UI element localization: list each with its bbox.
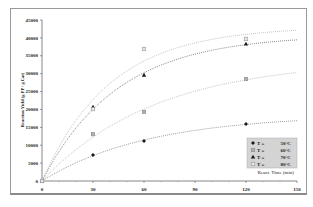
x-tick-label: 150 (293, 187, 301, 192)
gray-square-marker-icon (244, 77, 248, 81)
x-tick-label: 0 (41, 187, 44, 192)
open-square-marker-icon (142, 47, 146, 51)
y-tick-label: 35000 (26, 53, 39, 58)
legend-label: T = (257, 141, 264, 146)
legend-value: 60°C (280, 148, 291, 153)
triangle-marker-icon (142, 73, 146, 77)
legend-label: T = (257, 148, 264, 153)
open-square-marker-icon (244, 37, 248, 41)
legend-label: T = (257, 155, 264, 160)
y-tick-label: 25000 (26, 89, 39, 94)
open-square-marker-icon (91, 107, 95, 111)
gray-square-marker-icon (91, 132, 95, 136)
y-tick-label: 10000 (26, 143, 39, 148)
legend-value: 80°C (280, 162, 291, 167)
open-square-marker-icon (251, 162, 255, 166)
y-axis-title: Reaction Yield (g PP / g Cat) (20, 72, 25, 127)
x-tick-label: 120 (242, 187, 250, 192)
y-tick-label: 45000 (26, 18, 39, 23)
gray-square-marker-icon (142, 110, 146, 114)
open-square-marker-icon (40, 179, 44, 183)
y-tick-label: 30000 (26, 71, 39, 76)
diamond-marker-icon (142, 139, 146, 143)
diamond-marker-icon (91, 153, 95, 157)
gray-square-marker-icon (251, 148, 255, 152)
legend: T =50°CT =60°CT =70°CT =80°C (247, 138, 297, 168)
y-tick-label: 0 (36, 179, 39, 184)
x-tick-label: 90 (193, 187, 199, 192)
data-points (40, 37, 248, 183)
y-tick-label: 40000 (26, 36, 39, 41)
x-tick-label: 60 (142, 187, 148, 192)
legend-value: 70°C (280, 155, 291, 160)
diamond-marker-icon (244, 122, 248, 126)
legend-value: 50°C (280, 141, 291, 146)
y-tick-label: 20000 (26, 107, 39, 112)
y-tick-label: 15000 (26, 125, 39, 130)
x-axis-title: React. Time (min) (257, 170, 294, 175)
chart: 0500010000150002000025000300003500040000… (0, 0, 313, 207)
legend-label: T = (257, 162, 264, 167)
triangle-marker-icon (244, 42, 248, 46)
y-tick-label: 5000 (28, 161, 39, 166)
x-tick-label: 30 (91, 187, 97, 192)
